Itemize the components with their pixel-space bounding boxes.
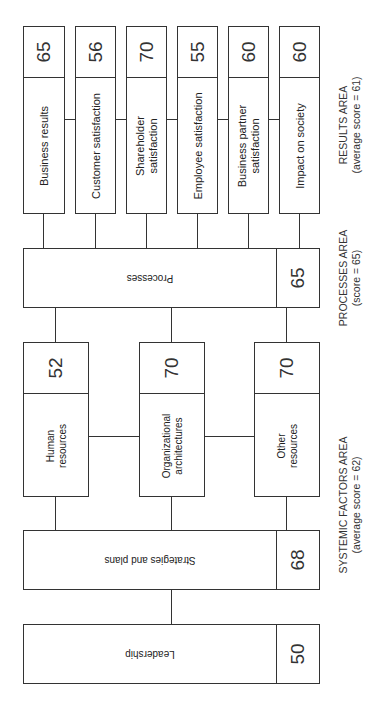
result-box-impact-on-society: 60 Impact on society (279, 26, 320, 214)
box-label-line2: architectures (172, 413, 184, 477)
score-cell: 65 (277, 249, 319, 307)
score-cell: 55 (178, 27, 217, 78)
area-title: SYSTEMIC FACTORS AREA (337, 437, 350, 574)
label-cell: Impact on society (280, 78, 319, 214)
result-box-employee-satisfaction: 55 Employee satisfaction (177, 26, 218, 214)
box-label: Impact on society (293, 103, 305, 189)
score-value: 70 (136, 41, 158, 62)
score-cell: 70 (127, 27, 166, 78)
box-label-line2: resources (56, 424, 68, 468)
connector (171, 496, 172, 531)
processes-box: Processes 65 (23, 248, 320, 308)
result-box-shareholder-satisfaction: 70 Shareholder satisfaction (126, 26, 167, 214)
connector (299, 213, 300, 249)
area-title: PROCESSES AREA (337, 230, 350, 326)
score-cell: 70 (255, 343, 319, 394)
box-label-line1: Human (45, 424, 57, 468)
label-cell: Human resources (24, 394, 88, 497)
result-box-business-partner-satisfaction: 60 Business partner satisfaction (228, 26, 269, 214)
score-value: 65 (33, 41, 55, 62)
score-cell: 65 (24, 27, 64, 78)
label-cell: Leadership (24, 625, 277, 683)
label-cell: Organizational architectures (140, 394, 204, 497)
label-cell: Employee satisfaction (178, 78, 217, 214)
box-label-line2: satisfaction (249, 105, 262, 188)
box-label: Business results (38, 106, 50, 186)
connector (88, 436, 140, 437)
human-resources-box: 52 Human resources (23, 342, 89, 497)
label-cell: Other resources (255, 394, 319, 497)
score-cell: 70 (140, 343, 204, 394)
score-cell: 50 (277, 625, 319, 683)
connector (248, 213, 249, 249)
connector (146, 213, 147, 249)
box-label-line1: Other (276, 424, 288, 468)
box-label: Strategies and plans (104, 554, 195, 566)
score-cell: 52 (24, 343, 88, 394)
leadership-box: Leadership 50 (23, 624, 320, 684)
box-label: Leadership (125, 648, 174, 660)
score-value: 65 (287, 267, 309, 288)
box-label-line1: Organizational (161, 413, 173, 477)
box-label: Customer satisfaction (89, 93, 101, 199)
label-cell: Strategies and plans (24, 531, 277, 589)
label-cell: Business partner satisfaction (229, 78, 268, 214)
score-cell: 68 (277, 531, 319, 589)
box-label: Processes (127, 272, 174, 284)
score-value: 56 (85, 41, 107, 62)
label-cell: Shareholder satisfaction (127, 78, 166, 214)
area-subtitle: (score = 65) (350, 230, 363, 326)
score-value: 55 (187, 41, 209, 62)
box-label-line2: satisfaction (147, 116, 160, 176)
connector (95, 213, 96, 249)
connector (55, 496, 56, 531)
area-subtitle: (average score = 61) (350, 76, 363, 173)
score-value: 60 (289, 41, 311, 62)
score-cell: 56 (76, 27, 115, 78)
box-label-line2: resources (287, 424, 299, 468)
connector (171, 307, 172, 343)
results-area-label: RESULTS AREA (average score = 61) (337, 76, 362, 173)
score-value: 60 (238, 41, 260, 62)
processes-area-label: PROCESSES AREA (score = 65) (337, 230, 362, 326)
connector (203, 436, 255, 437)
connector (286, 307, 287, 343)
score-cell: 60 (280, 27, 319, 78)
box-label: Employee satisfaction (191, 93, 203, 200)
connector (55, 307, 56, 343)
score-value: 52 (45, 357, 67, 378)
connector (171, 589, 172, 625)
connector (197, 213, 198, 249)
area-title: RESULTS AREA (337, 76, 350, 173)
organizational-architectures-box: 70 Organizational architectures (139, 342, 205, 497)
score-value: 70 (161, 357, 183, 378)
score-value: 68 (287, 549, 309, 570)
score-cell: 60 (229, 27, 268, 78)
score-value: 70 (276, 357, 298, 378)
label-cell: Processes (24, 249, 277, 307)
strategies-and-plans-box: Strategies and plans 68 (23, 530, 320, 590)
other-resources-box: 70 Other resources (254, 342, 320, 497)
label-cell: Business results (24, 78, 64, 214)
box-label-line1: Shareholder (134, 116, 147, 176)
result-box-business-results: 65 Business results (23, 26, 65, 214)
box-label-line1: Business partner (236, 105, 249, 188)
label-cell: Customer satisfaction (76, 78, 115, 214)
systemic-factors-area-label: SYSTEMIC FACTORS AREA (average score = 6… (337, 437, 362, 574)
connector (43, 213, 44, 249)
connector (286, 496, 287, 531)
area-subtitle: (average score = 62) (350, 437, 363, 574)
result-box-customer-satisfaction: 56 Customer satisfaction (75, 26, 116, 214)
score-value: 50 (287, 643, 309, 664)
